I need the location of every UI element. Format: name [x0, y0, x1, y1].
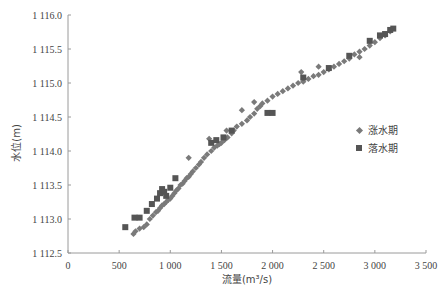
y-axis-title: 水位(m) [10, 124, 22, 162]
x-tick-label: 2 000 [261, 260, 284, 271]
data-point-diamond [264, 98, 270, 104]
data-point-diamond [239, 107, 245, 113]
y-tick-label: 1 114.5 [32, 112, 62, 123]
data-point-square [367, 38, 373, 44]
data-point-square [154, 196, 160, 202]
data-point-square [270, 110, 276, 116]
data-point-diamond [239, 121, 245, 127]
square-marker-icon [356, 145, 362, 151]
data-point-diamond [356, 54, 362, 60]
data-point-square [229, 128, 235, 134]
x-tick-label: 1 000 [159, 260, 182, 271]
data-point-square [144, 208, 150, 214]
data-point-square [213, 137, 219, 143]
legend: 涨水期 落水期 [356, 125, 398, 154]
x-tick-label: 500 [112, 260, 127, 271]
data-point-square [149, 201, 155, 207]
data-point-square [382, 31, 388, 37]
data-point-square [208, 140, 214, 146]
data-point-diamond [315, 72, 321, 78]
data-point-diamond [275, 91, 281, 97]
legend-item-falling: 落水期 [356, 143, 398, 154]
legend-label-falling: 落水期 [368, 143, 398, 154]
data-point-diamond [251, 110, 257, 116]
data-point-diamond [285, 85, 291, 91]
y-tick-label: 1 114.0 [32, 146, 62, 157]
data-point-diamond [251, 99, 257, 105]
x-tick-label: 2 500 [312, 260, 335, 271]
data-point-diamond [290, 83, 296, 89]
data-point-diamond [310, 73, 316, 79]
data-point-diamond [362, 46, 368, 52]
legend-label-rising: 涨水期 [368, 125, 398, 136]
data-point-square [163, 193, 169, 199]
data-point-diamond [298, 69, 304, 75]
y-axis: 1 112.51 113.01 113.51 114.01 114.51 115… [32, 10, 71, 259]
data-point-diamond [341, 58, 347, 64]
legend-item-rising: 涨水期 [356, 125, 398, 136]
data-point-square [346, 53, 352, 59]
x-tick-label: 1 500 [210, 260, 233, 271]
diamond-marker-icon [356, 127, 363, 134]
data-point-diamond [269, 93, 275, 99]
x-tick-label: 0 [66, 260, 71, 271]
y-tick-label: 1 113.0 [32, 214, 62, 225]
x-tick-label: 3 500 [415, 260, 438, 271]
data-point-square [264, 110, 270, 116]
data-point-square [390, 26, 396, 32]
data-point-diamond [315, 64, 321, 70]
data-point-diamond [336, 61, 342, 67]
x-axis-title: 流量(m³/s) [222, 273, 272, 285]
data-point-diamond [356, 49, 362, 55]
series-rising-points [130, 28, 393, 237]
data-point-diamond [280, 88, 286, 94]
data-point-square [167, 185, 173, 191]
data-point-square [172, 175, 178, 181]
y-tick-label: 1 112.5 [32, 248, 62, 259]
data-point-diamond [295, 80, 301, 86]
y-tick-label: 1 115.0 [32, 78, 62, 89]
data-point-square [377, 32, 383, 38]
data-point-square [122, 224, 128, 230]
x-axis: 05001 0001 5002 0002 5003 0003 500 [66, 250, 438, 271]
data-point-diamond [186, 155, 192, 161]
scatter-chart: 05001 0001 5002 0002 5003 0003 500 1 112… [0, 0, 448, 298]
y-tick-label: 1 115.5 [32, 44, 62, 55]
data-point-square [326, 65, 332, 71]
x-tick-label: 3 000 [364, 260, 387, 271]
data-point-square [137, 215, 143, 221]
data-point-square [300, 75, 306, 81]
y-tick-label: 1 113.5 [32, 180, 62, 191]
data-point-square [220, 134, 226, 140]
y-tick-label: 1 116.0 [32, 10, 62, 21]
data-point-square [131, 215, 137, 221]
